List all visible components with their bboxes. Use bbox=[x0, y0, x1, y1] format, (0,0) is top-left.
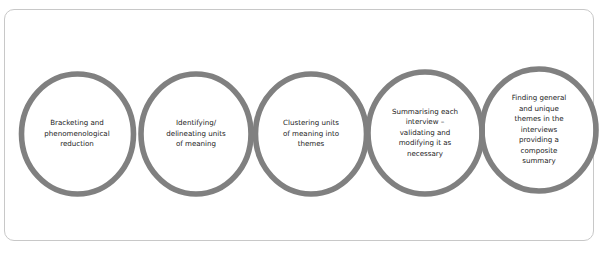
stage-label-layer: Bracketing and phenomenological reductio… bbox=[0, 0, 603, 256]
stage-label-5: Finding general and unique themes in the… bbox=[485, 68, 593, 192]
stage-label-4: Summarising each interview – validating … bbox=[369, 71, 481, 195]
stage-label-1: Bracketing and phenomenological reductio… bbox=[22, 73, 132, 195]
stage-label-2: Identifying/ delineating units of meanin… bbox=[141, 73, 251, 195]
figure-root: Bracketing and phenomenological reductio… bbox=[0, 0, 603, 256]
stage-label-3: Clustering units of meaning into themes bbox=[256, 73, 366, 195]
